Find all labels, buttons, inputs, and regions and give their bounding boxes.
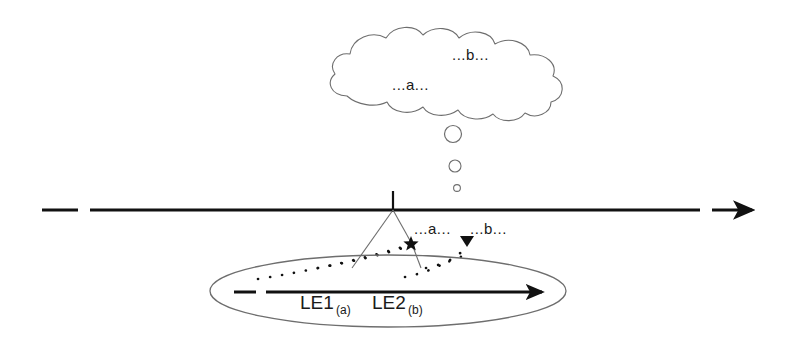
main-timeline: ...a... ...b... (42, 191, 752, 268)
dotted-path-b-upper (426, 252, 471, 268)
thought-bubble-trail (445, 126, 462, 192)
thought-bubble-large (445, 126, 462, 143)
dotted-path-a-upper (318, 247, 406, 268)
timeline-label-a: ...a... (414, 220, 451, 237)
event-label-le2-subscript: (b) (408, 303, 423, 317)
event-label-le2-text: LE2 (372, 292, 406, 313)
star-marker (403, 236, 418, 251)
triangle-marker (460, 236, 474, 247)
embedded-event-ellipse: LE1 (a) LE2 (b) (210, 255, 566, 327)
thought-bubble-small (454, 185, 461, 192)
event-label-le1-subscript: (a) (336, 303, 351, 317)
diagram-canvas: ...a... ...b... ...a... ...b... (0, 0, 795, 346)
dotted-path-b (405, 250, 464, 277)
cloud-outline (330, 27, 562, 120)
cloud-label-b: ...b... (452, 46, 489, 63)
cloud-label-a: ...a... (392, 76, 429, 93)
thought-bubble-medium (449, 160, 461, 172)
thought-cloud: ...a... ...b... (330, 27, 562, 120)
event-label-le1: LE1 (a) (300, 292, 351, 317)
cone-leg-right (393, 210, 412, 244)
event-label-le2: LE2 (b) (372, 292, 423, 317)
cone-leg-left (352, 210, 393, 268)
event-label-le1-text: LE1 (300, 292, 334, 313)
diagram-svg: ...a... ...b... ...a... ...b... (0, 0, 795, 346)
timeline-label-b: ...b... (470, 220, 507, 237)
